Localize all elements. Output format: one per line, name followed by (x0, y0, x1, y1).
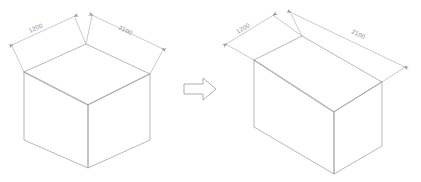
left-dim-1200-label: 1200 (28, 21, 44, 34)
left-dim-1200-ext-a (12, 46, 24, 72)
right-box-right-face (334, 82, 382, 174)
left-dim-2100-ext-a (86, 16, 92, 44)
right-dim-1200-ext-a (227, 45, 254, 60)
left-box-left-face (24, 72, 88, 168)
transformation-arrow (184, 78, 216, 100)
right-box-left-face (254, 60, 334, 174)
left-dim-2100-label: 2100 (118, 24, 134, 37)
arrow-right-icon (184, 78, 216, 100)
figure-left-box: 1200 2100 (12, 16, 163, 168)
right-box-solid (254, 36, 382, 174)
left-dim-2100-ext-b (150, 50, 163, 74)
right-dim-2100 (291, 13, 405, 82)
left-dim-1200 (12, 17, 86, 72)
right-dim-2100-ext-b (382, 67, 405, 82)
left-box-top-face (24, 44, 150, 105)
right-dim-1200-label: 1200 (235, 21, 251, 35)
left-dim-1200-line (14, 17, 73, 44)
technical-drawing-svg: 1200 2100 (0, 0, 421, 182)
right-box-top-face (254, 36, 382, 112)
left-box-solid (24, 44, 150, 168)
left-dim-1200-ext-b (75, 18, 86, 44)
right-dim-2100-label: 2100 (351, 28, 367, 41)
left-box-right-face (88, 74, 150, 168)
figure-right-box: 1200 2100 (227, 13, 405, 174)
drawing-canvas: 1200 2100 (0, 0, 421, 182)
right-dim-1200 (227, 16, 302, 60)
right-dim-1200-ext-b (274, 16, 302, 36)
